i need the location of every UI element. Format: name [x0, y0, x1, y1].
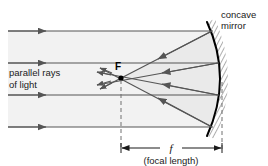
parallel-rays-label-line1: parallel rays	[9, 67, 60, 78]
focal-point-label: F	[115, 61, 121, 72]
focal-point-dot	[118, 75, 123, 80]
focal-length-symbol: f	[169, 142, 174, 154]
figure-root: F concave mirror parallel rays of light …	[0, 0, 268, 166]
mirror-label-line2: mirror	[221, 20, 246, 31]
mirror-label-line1: concave	[221, 9, 256, 20]
focal-length-caption: (focal length)	[144, 155, 199, 166]
parallel-rays-label-line2: of light	[9, 79, 37, 90]
ray-diagram-svg: F concave mirror parallel rays of light …	[0, 0, 268, 166]
